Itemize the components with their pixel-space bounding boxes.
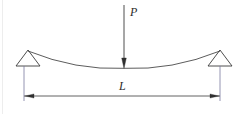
figure-canvas: P L — [0, 0, 251, 114]
pin-support-right-icon — [208, 50, 232, 66]
dimension-arrowhead-left-icon — [25, 94, 34, 98]
dimension-arrowhead-right-icon — [210, 94, 219, 98]
beam-diagram: P L — [0, 0, 251, 114]
load-label: P — [129, 5, 138, 19]
load-arrowhead-icon — [122, 58, 127, 69]
pin-support-left-icon — [16, 50, 40, 66]
span-label: L — [118, 79, 126, 93]
